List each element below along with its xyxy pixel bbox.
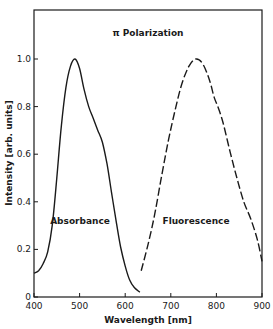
x-tick-label: 800: [208, 301, 225, 311]
absorbance-curve: [34, 59, 140, 292]
y-tick-label: 0.2: [17, 244, 31, 254]
y-axis-label: Intensity [arb. units]: [4, 100, 14, 206]
y-tick-label: 0.6: [17, 149, 32, 159]
absorbance-label: Absorbance: [50, 216, 110, 226]
x-axis-label: Wavelength [nm]: [104, 315, 192, 325]
y-tick-label: 0.4: [17, 197, 32, 207]
tick-labels: 40050060070080090000.20.40.60.81.0: [17, 54, 271, 311]
y-tick-label: 0.8: [17, 102, 32, 112]
plot-frame: [34, 10, 262, 297]
chart-title: π Polarization: [112, 28, 183, 38]
x-tick-label: 400: [25, 301, 42, 311]
x-tick-label: 900: [253, 301, 270, 311]
y-tick-label: 0: [25, 292, 31, 302]
x-tick-label: 600: [117, 301, 134, 311]
axis-ticks: [34, 59, 262, 297]
x-tick-label: 700: [162, 301, 179, 311]
fluorescence-label: Fluorescence: [162, 216, 229, 226]
chart: 40050060070080090000.20.40.60.81.0 π Pol…: [0, 0, 273, 329]
fluorescence-curve: [141, 59, 262, 271]
x-tick-label: 500: [71, 301, 88, 311]
y-tick-label: 1.0: [17, 54, 32, 64]
